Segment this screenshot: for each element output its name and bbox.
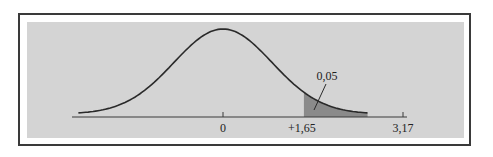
tick-label: 0	[220, 121, 226, 135]
shaded-tail-area	[304, 92, 368, 117]
tick-label: 3,17	[393, 121, 414, 135]
annotation-label: 0,05	[317, 69, 338, 83]
tick-label: +1,65	[288, 121, 316, 135]
normal-distribution-chart: 0+1,653,17 0,05	[0, 0, 493, 157]
